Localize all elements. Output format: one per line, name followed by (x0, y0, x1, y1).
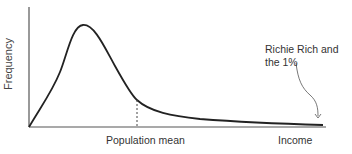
mean-label: Population mean (106, 134, 185, 146)
y-axis-label: Frequency (2, 38, 14, 90)
income-distribution-chart (0, 0, 352, 154)
annotation-line-2: the 1% (265, 56, 298, 68)
distribution-curve (29, 25, 323, 127)
annotation-line-1: Richie Rich and (265, 43, 339, 55)
x-axis-label: Income (278, 134, 312, 146)
annotation-arrow (296, 63, 318, 116)
